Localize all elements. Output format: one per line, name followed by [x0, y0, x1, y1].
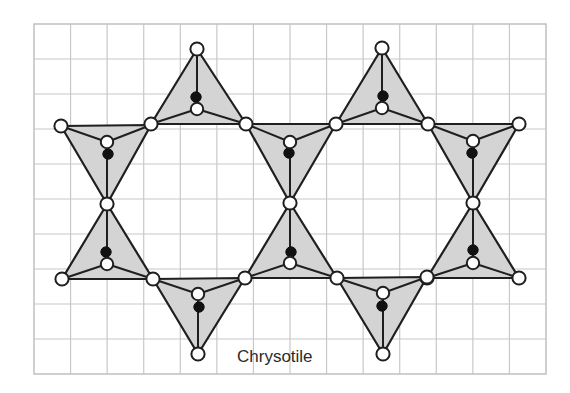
- tetrahedron-right-lower: [427, 203, 519, 278]
- oxygen-atom-icon: [190, 42, 203, 55]
- silicon-atom-icon: [377, 301, 387, 311]
- silicon-atom-icon: [468, 245, 478, 255]
- tetrahedron-bottom-right: [337, 277, 427, 354]
- apical-oxygen-atom-icon: [467, 135, 479, 147]
- silicon-atom-icon: [286, 247, 296, 257]
- oxygen-atom-icon: [375, 41, 388, 54]
- oxygen-atom-icon: [512, 271, 525, 284]
- oxygen-atom-icon: [376, 347, 389, 360]
- oxygen-atom-icon: [329, 117, 342, 130]
- chrysotile-structure-diagram: Chrysotile: [0, 0, 570, 393]
- tetrahedron-bottom-left: [153, 278, 245, 354]
- silicon-atom-icon: [103, 149, 113, 159]
- apical-oxygen-atom-icon: [377, 287, 389, 299]
- oxygen-atom-icon: [421, 117, 434, 130]
- apical-oxygen-atom-icon: [284, 257, 296, 269]
- apical-oxygen-atom-icon: [101, 136, 113, 148]
- oxygen-atom-icon: [191, 347, 204, 360]
- silicon-atom-icon: [194, 302, 204, 312]
- apical-oxygen-atom-icon: [191, 103, 203, 115]
- silicon-atom-icon: [284, 148, 294, 158]
- oxygen-atom-icon: [239, 117, 252, 130]
- apical-oxygen-atom-icon: [192, 288, 204, 300]
- oxygen-atom-icon: [55, 272, 68, 285]
- tetrahedron-left-lower: [62, 204, 153, 279]
- tetrahedron-center-lower: [245, 203, 337, 278]
- oxygen-atom-icon: [238, 271, 251, 284]
- oxygen-atom-icon: [420, 270, 433, 283]
- silicon-atom-icon: [191, 92, 201, 102]
- oxygen-atom-icon: [100, 197, 113, 210]
- apical-oxygen-atom-icon: [284, 136, 296, 148]
- oxygen-atom-icon: [466, 196, 479, 209]
- silicon-atom-icon: [467, 148, 477, 158]
- apical-oxygen-atom-icon: [467, 257, 479, 269]
- oxygen-atom-icon: [283, 196, 296, 209]
- oxygen-atom-icon: [54, 119, 67, 132]
- oxygen-atom-icon: [144, 117, 157, 130]
- tetrahedron-top-left: [151, 49, 246, 124]
- silicon-atom-icon: [378, 91, 388, 101]
- oxygen-atom-icon: [146, 272, 159, 285]
- apical-oxygen-atom-icon: [101, 258, 113, 270]
- oxygen-atom-icon: [512, 117, 525, 130]
- silicon-atom-icon: [101, 247, 111, 257]
- diagram-caption: Chrysotile: [237, 347, 313, 366]
- oxygen-atom-icon: [330, 271, 343, 284]
- apical-oxygen-atom-icon: [376, 102, 388, 114]
